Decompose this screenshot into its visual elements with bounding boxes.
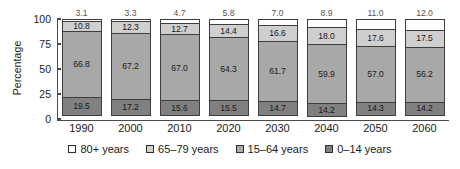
segment-value-label: 5.8 bbox=[223, 9, 235, 18]
bar-segment: 19.5 bbox=[62, 97, 102, 117]
bar-group: 3.110.866.819.53.312.367.217.24.712.767.… bbox=[57, 19, 449, 119]
segment-value-label: 17.2 bbox=[122, 103, 139, 112]
bar-segment: 17.2 bbox=[111, 99, 151, 116]
bar-2010[interactable]: 4.712.767.015.6 bbox=[160, 19, 200, 119]
x-tick-label-2010: 2010 bbox=[155, 122, 204, 134]
y-tick-label: 0 bbox=[45, 113, 51, 125]
x-axis-labels: 19902000201020202030204020502060 bbox=[57, 122, 449, 134]
y-tick-label: 75 bbox=[39, 38, 51, 50]
segment-value-label: 67.2 bbox=[122, 62, 139, 71]
legend-label: 80+ years bbox=[80, 143, 129, 155]
y-tick-25: 25 bbox=[39, 88, 57, 100]
y-tick-50: 50 bbox=[39, 63, 57, 75]
legend-swatch-icon bbox=[236, 145, 244, 153]
segment-value-label: 3.3 bbox=[125, 9, 137, 18]
bar-segment: 17.6 bbox=[356, 29, 396, 47]
bar-2060[interactable]: 12.017.556.214.2 bbox=[405, 19, 445, 119]
legend-swatch-icon bbox=[325, 145, 333, 153]
bar-1990[interactable]: 3.110.866.819.5 bbox=[62, 19, 102, 119]
segment-value-label: 14.2 bbox=[318, 106, 335, 115]
legend-item[interactable]: 65–79 years bbox=[146, 143, 219, 155]
x-tick-label-2000: 2000 bbox=[106, 122, 155, 134]
bar-segment: 15.5 bbox=[209, 100, 249, 116]
segment-value-label: 57.0 bbox=[367, 70, 384, 79]
segment-value-label: 15.5 bbox=[220, 104, 237, 113]
bar-segment: 15.6 bbox=[160, 100, 200, 116]
legend-item[interactable]: 0–14 years bbox=[325, 143, 391, 155]
segment-value-label: 4.7 bbox=[174, 9, 186, 18]
segment-value-label: 7.0 bbox=[272, 9, 284, 18]
x-tick-label-1990: 1990 bbox=[57, 122, 106, 134]
y-tick-label: 100 bbox=[33, 13, 51, 25]
bar-segment: 18.0 bbox=[307, 27, 347, 45]
segment-value-label: 11.0 bbox=[367, 9, 383, 18]
legend-item[interactable]: 15–64 years bbox=[236, 143, 309, 155]
bar-segment: 14.2 bbox=[405, 102, 445, 116]
segment-value-label: 12.3 bbox=[122, 23, 139, 32]
bar-column: 12.017.556.214.2 bbox=[400, 19, 449, 119]
x-tick-label-2060: 2060 bbox=[400, 122, 449, 134]
segment-value-label: 12.7 bbox=[171, 25, 188, 34]
bar-segment: 67.0 bbox=[160, 34, 200, 101]
bar-2020[interactable]: 5.814.464.315.5 bbox=[209, 19, 249, 119]
bar-column: 5.814.464.315.5 bbox=[204, 19, 253, 119]
bar-column: 3.312.367.217.2 bbox=[106, 19, 155, 119]
bar-segment: 56.2 bbox=[405, 47, 445, 103]
bar-column: 7.016.661.714.7 bbox=[253, 19, 302, 119]
y-tick-0: 0 bbox=[45, 113, 57, 125]
segment-value-label: 67.0 bbox=[171, 64, 188, 73]
segment-value-label: 17.6 bbox=[367, 34, 384, 43]
bar-segment: 59.9 bbox=[307, 44, 347, 104]
segment-value-label: 15.6 bbox=[171, 104, 188, 113]
y-tick-label: 25 bbox=[39, 88, 51, 100]
segment-value-label: 14.4 bbox=[220, 27, 237, 36]
bar-segment: 14.4 bbox=[209, 24, 249, 38]
segment-value-label: 12.0 bbox=[416, 9, 433, 18]
legend-label: 65–79 years bbox=[158, 143, 219, 155]
segment-value-label: 3.1 bbox=[76, 9, 88, 18]
y-tick-label: 50 bbox=[39, 63, 51, 75]
segment-value-label: 61.7 bbox=[269, 67, 286, 76]
bar-2000[interactable]: 3.312.367.217.2 bbox=[111, 19, 151, 119]
bar-column: 11.017.657.014.3 bbox=[351, 19, 400, 119]
segment-value-label: 64.3 bbox=[220, 65, 237, 74]
x-tick-label-2030: 2030 bbox=[253, 122, 302, 134]
bar-segment: 61.7 bbox=[258, 41, 298, 103]
legend-label: 15–64 years bbox=[248, 143, 309, 155]
bar-segment: 67.2 bbox=[111, 33, 151, 100]
y-tick-100: 100 bbox=[33, 13, 57, 25]
y-axis-title: Percentage bbox=[11, 22, 23, 114]
segment-value-label: 14.3 bbox=[367, 104, 384, 113]
bar-segment: 14.2 bbox=[307, 103, 347, 117]
bar-column: 4.712.767.015.6 bbox=[155, 19, 204, 119]
bar-2030[interactable]: 7.016.661.714.7 bbox=[258, 19, 298, 119]
legend-label: 0–14 years bbox=[337, 143, 391, 155]
bar-segment: 57.0 bbox=[356, 46, 396, 103]
bar-2050[interactable]: 11.017.657.014.3 bbox=[356, 19, 396, 119]
legend-swatch-icon bbox=[146, 145, 154, 153]
bar-segment: 66.8 bbox=[62, 31, 102, 98]
bar-2040[interactable]: 8.918.059.914.2 bbox=[307, 19, 347, 119]
x-axis-line bbox=[57, 120, 449, 121]
stacked-bar-chart: Percentage 1007550250 3.110.866.819.53.3… bbox=[0, 0, 460, 169]
x-tick-label-2020: 2020 bbox=[204, 122, 253, 134]
bar-segment: 14.7 bbox=[258, 101, 298, 116]
bar-segment: 16.6 bbox=[258, 25, 298, 42]
segment-value-label: 18.0 bbox=[318, 32, 335, 41]
bar-column: 3.110.866.819.5 bbox=[57, 19, 106, 119]
y-tick-75: 75 bbox=[39, 38, 57, 50]
segment-value-label: 59.9 bbox=[318, 70, 335, 79]
segment-value-label: 8.9 bbox=[321, 9, 333, 18]
chart-legend: 80+ years65–79 years15–64 years0–14 year… bbox=[0, 143, 460, 155]
x-tick-label-2050: 2050 bbox=[351, 122, 400, 134]
segment-value-label: 19.5 bbox=[73, 102, 90, 111]
legend-item[interactable]: 80+ years bbox=[68, 143, 129, 155]
x-tick-label-2040: 2040 bbox=[302, 122, 351, 134]
segment-value-label: 14.7 bbox=[269, 104, 286, 113]
bar-segment: 64.3 bbox=[209, 37, 249, 101]
segment-value-label: 56.2 bbox=[416, 70, 433, 79]
legend-swatch-icon bbox=[68, 145, 76, 153]
segment-value-label: 10.8 bbox=[73, 22, 90, 31]
segment-value-label: 17.5 bbox=[416, 34, 433, 43]
segment-value-label: 14.2 bbox=[416, 104, 433, 113]
